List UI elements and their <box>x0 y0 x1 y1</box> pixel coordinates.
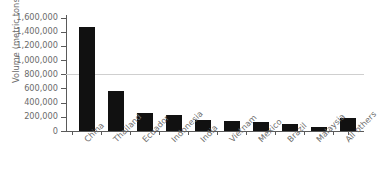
y-tick-label: 600,000 <box>0 83 58 93</box>
plot-area <box>66 18 364 132</box>
x-tick <box>72 131 73 135</box>
y-tick-label: 1,200,000 <box>0 40 58 50</box>
bar <box>79 27 95 131</box>
y-tick-label: 1,400,000 <box>0 26 58 36</box>
y-tick-label: 800,000 <box>0 69 58 79</box>
y-tick-label: 0 <box>0 126 58 136</box>
y-tick <box>61 131 66 132</box>
y-tick-label: 1,600,000 <box>0 12 58 22</box>
y-tick-label: 1,000,000 <box>0 55 58 65</box>
y-tick-label: 400,000 <box>0 97 58 107</box>
y-tick-label: 200,000 <box>0 111 58 121</box>
